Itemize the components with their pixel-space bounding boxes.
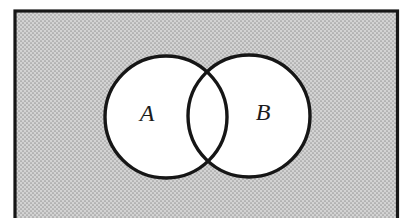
venn-diagram-figure: A B [0, 0, 405, 218]
set-b-label: B [256, 99, 271, 125]
venn-diagram-svg: A B [0, 0, 405, 218]
set-a-label: A [138, 100, 155, 126]
